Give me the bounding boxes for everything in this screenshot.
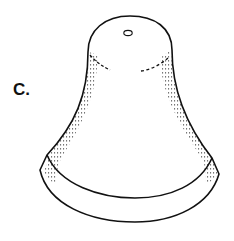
bell-outline: [40, 16, 219, 222]
top-hole: [124, 30, 132, 35]
rim-edge: [47, 155, 212, 198]
figure-canvas: C.: [0, 0, 234, 241]
bell-drawing: [0, 0, 234, 241]
